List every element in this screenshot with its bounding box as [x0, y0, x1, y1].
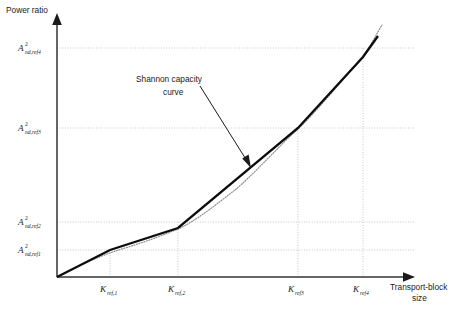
y-tick-ref4-superscript: 2: [25, 41, 28, 47]
y-axis-title: Power ratio: [6, 5, 48, 15]
x-tick-ref1-subscript: ref,1: [107, 290, 117, 296]
y-axis-arrowhead: [52, 13, 62, 25]
annotation-label-line1: Shannon capacity: [136, 74, 203, 84]
figure-canvas: Shannon capacity curve Power ratio Trans…: [0, 0, 456, 309]
x-tick-ref3-base: K: [287, 284, 295, 294]
x-tick-label-ref2: K ref,2: [167, 284, 185, 296]
y-tick-label-ref1: A 2 nd,ref1: [17, 243, 41, 258]
x-axis-title-line1: Transport-block: [390, 282, 448, 292]
y-tick-ref3-base: A: [17, 123, 24, 133]
y-tick-ref3-subscript: nd,ref3: [25, 129, 41, 135]
y-tick-label-ref4: A 2 nd,ref4: [17, 41, 41, 56]
y-tick-ref3-superscript: 2: [25, 121, 28, 127]
y-tick-ref4-subscript: nd,ref4: [25, 49, 41, 55]
x-tick-ref4-base: K: [352, 284, 360, 294]
x-tick-ref1-base: K: [99, 284, 107, 294]
y-tick-label-ref3: A 2 nd,ref3: [17, 121, 41, 136]
y-tick-ref4-base: A: [17, 43, 24, 53]
shannon-capacity-dotted-curve: [57, 25, 382, 277]
horizontal-gridlines: [57, 48, 415, 250]
piecewise-linear-curve: [57, 36, 378, 277]
y-tick-ref1-subscript: nd,ref1: [25, 251, 41, 257]
x-tick-ref2-subscript: ref,2: [175, 290, 185, 296]
annotation-label-line2: curve: [163, 87, 184, 97]
y-tick-label-ref2: A 2 nd,ref2: [17, 215, 41, 230]
annotation-arrowhead: [242, 154, 251, 168]
y-tick-ref2-base: A: [17, 217, 24, 227]
x-tick-ref2-base: K: [167, 284, 175, 294]
y-tick-ref2-superscript: 2: [25, 215, 28, 221]
x-tick-label-ref4: K ref4: [352, 284, 369, 296]
x-tick-label-ref1: K ref,1: [99, 284, 117, 296]
x-axis-title-line2: size: [412, 293, 427, 303]
shannon-capacity-figure: Shannon capacity curve Power ratio Trans…: [0, 0, 456, 309]
x-tick-ref4-subscript: ref4: [360, 290, 369, 296]
shannon-annotation-group: [200, 86, 251, 168]
annotation-leader-line: [200, 86, 247, 161]
x-tick-ref3-subscript: ref3: [295, 290, 304, 296]
y-tick-ref1-base: A: [17, 245, 24, 255]
y-tick-ref2-subscript: nd,ref2: [25, 223, 41, 229]
x-tick-label-ref3: K ref3: [287, 284, 304, 296]
axes-group: [52, 13, 415, 282]
y-tick-ref1-superscript: 2: [25, 243, 28, 249]
x-axis-arrowhead: [403, 272, 415, 282]
